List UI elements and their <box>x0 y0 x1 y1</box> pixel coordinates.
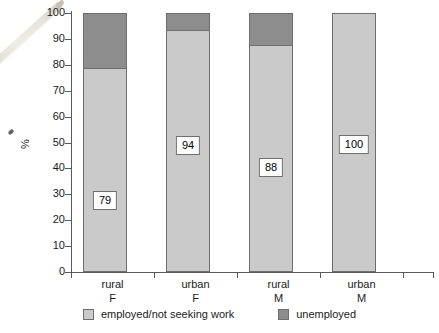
data-label-urban-f: 94 <box>176 136 200 155</box>
y-tick-mark-50 <box>65 143 71 144</box>
data-label-urban-m: 100 <box>339 135 369 154</box>
x-category-label-rural-m: rural M <box>237 277 320 305</box>
legend-item-employed[interactable]: employed/not seeking work <box>83 308 234 320</box>
x-tick-mark-4 <box>403 272 404 278</box>
x-category-line1: urban <box>154 277 237 291</box>
y-tick-mark-90 <box>65 39 71 40</box>
bar-segment-employed-rural-m: 88 <box>250 46 292 271</box>
y-tick-label-90: 90 <box>25 33 65 44</box>
chart-legend: employed/not seeking work unemployed <box>0 308 439 320</box>
x-category-label-rural-f: rural F <box>71 277 154 305</box>
x-category-line2: F <box>154 291 237 305</box>
legend-label-unemployed: unemployed <box>296 308 356 320</box>
data-label-rural-m: 88 <box>259 158 283 177</box>
bar-segment-unemployed-rural-m <box>250 14 292 45</box>
plot-area: 79 94 88 100 <box>71 13 400 272</box>
x-category-line1: urban <box>320 277 403 291</box>
y-tick-label-60: 60 <box>25 111 65 122</box>
light-gray-swatch-icon <box>83 309 94 320</box>
scan-artifact-tip <box>7 129 14 136</box>
legend-item-unemployed[interactable]: unemployed <box>278 308 356 320</box>
bar-segment-unemployed-rural-f <box>84 14 126 68</box>
y-tick-label-50: 50 <box>25 137 65 148</box>
dark-gray-swatch-icon <box>278 309 289 320</box>
x-tick-mark-end <box>433 272 434 278</box>
y-tick-mark-20 <box>65 220 71 221</box>
bar-segment-employed-urban-m: 100 <box>333 14 375 271</box>
x-category-line1: rural <box>71 277 154 291</box>
bar-segment-employed-urban-f: 94 <box>167 31 209 272</box>
y-tick-label-80: 80 <box>25 59 65 70</box>
x-category-line2: F <box>71 291 154 305</box>
y-tick-mark-60 <box>65 117 71 118</box>
bar-segment-employed-rural-f: 79 <box>84 69 126 271</box>
bar-segment-unemployed-urban-f <box>167 14 209 30</box>
bar-urban-f[interactable]: 94 <box>166 13 210 272</box>
x-category-line2: M <box>237 291 320 305</box>
x-axis-line <box>71 272 434 273</box>
y-tick-label-70: 70 <box>25 85 65 96</box>
y-tick-label-20: 20 <box>25 214 65 225</box>
y-tick-mark-70 <box>65 91 71 92</box>
y-tick-mark-100 <box>65 13 71 14</box>
y-tick-mark-30 <box>65 194 71 195</box>
y-tick-label-10: 10 <box>25 240 65 251</box>
x-category-label-urban-m: urban M <box>320 277 403 305</box>
x-category-line2: M <box>320 291 403 305</box>
bar-rural-f[interactable]: 79 <box>83 13 127 272</box>
y-tick-label-0: 0 <box>25 266 65 277</box>
y-tick-label-40: 40 <box>25 162 65 173</box>
y-tick-label-30: 30 <box>25 188 65 199</box>
x-category-label-urban-f: urban F <box>154 277 237 305</box>
y-axis-tick-labels: 100 90 80 70 60 50 40 30 20 10 0 <box>23 13 65 272</box>
bar-urban-m[interactable]: 100 <box>332 13 376 272</box>
stacked-bar-chart: % 100 90 80 70 60 50 40 30 20 10 0 79 <box>0 0 439 333</box>
x-category-line1: rural <box>237 277 320 291</box>
y-tick-mark-80 <box>65 65 71 66</box>
y-tick-label-100: 100 <box>25 7 65 18</box>
legend-label-employed: employed/not seeking work <box>101 308 234 320</box>
y-tick-mark-10 <box>65 246 71 247</box>
bar-rural-m[interactable]: 88 <box>249 13 293 272</box>
data-label-rural-f: 79 <box>93 191 117 210</box>
y-tick-mark-40 <box>65 168 71 169</box>
